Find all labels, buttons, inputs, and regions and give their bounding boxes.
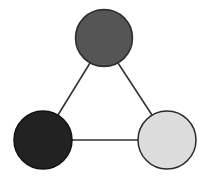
triangle-node-diagram <box>0 0 209 176</box>
diagram-canvas <box>0 0 209 176</box>
edge-top-to-bottom-right <box>118 63 152 115</box>
edge-top-to-bottom-left <box>58 63 90 115</box>
node-bottom-right-circle <box>138 111 196 169</box>
nodes-group <box>14 10 196 170</box>
edges-group <box>58 63 152 140</box>
node-top-circle <box>76 10 133 67</box>
node-bottom-left-circle <box>14 111 72 169</box>
